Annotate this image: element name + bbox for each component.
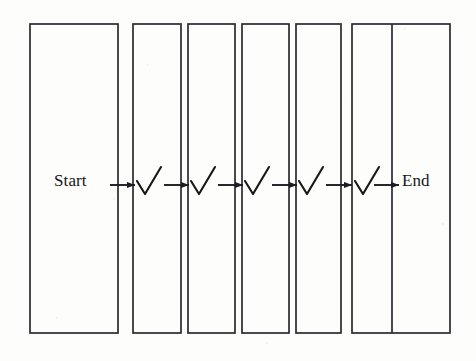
end-label: End bbox=[402, 172, 430, 189]
process-box-2 bbox=[133, 24, 181, 333]
checkmark-icon-5 bbox=[355, 167, 379, 194]
checkmark-icon-2 bbox=[191, 167, 215, 194]
process-box-3 bbox=[188, 24, 235, 333]
process-box-6 bbox=[352, 24, 450, 333]
diagram-canvas: Start End bbox=[0, 0, 476, 361]
process-box-5 bbox=[296, 24, 341, 333]
box-group bbox=[30, 24, 450, 333]
checkmark-icon-4 bbox=[299, 167, 323, 194]
checkmark-group bbox=[137, 167, 379, 194]
checkmark-icon-1 bbox=[137, 167, 161, 194]
checkmark-icon-3 bbox=[245, 167, 269, 194]
process-box-4 bbox=[242, 24, 289, 333]
start-label: Start bbox=[54, 172, 87, 189]
